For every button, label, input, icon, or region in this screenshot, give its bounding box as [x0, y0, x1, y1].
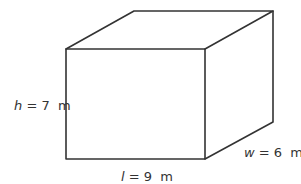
length-label: l = 9 m — [121, 169, 173, 184]
front-face — [66, 49, 205, 159]
prism-diagram: h = 7 m l = 9 m w = 6 m — [0, 0, 301, 184]
top-face — [66, 11, 273, 49]
right-face — [205, 11, 273, 159]
height-label: h = 7 m — [14, 98, 71, 113]
width-label: w = 6 m — [244, 145, 301, 160]
